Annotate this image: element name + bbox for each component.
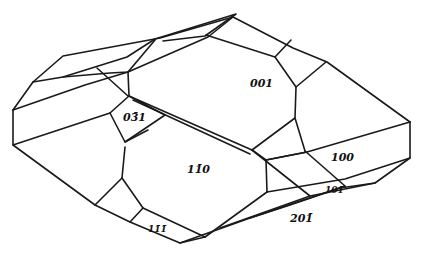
label-face-0-3bar-1: 03̄1 [123, 111, 146, 124]
face-110-lower-left [95, 147, 125, 205]
edge-b [128, 72, 129, 96]
outline-top [13, 17, 410, 122]
label-face-101: 101 [325, 185, 344, 195]
label-face-1-1bar-0: 11̄0 [187, 163, 210, 176]
edge-f [252, 118, 295, 150]
label-face-100: 100 [331, 151, 354, 164]
edge-i [266, 152, 307, 160]
edge-c [128, 40, 155, 72]
crystal-diagram: 001 03̄1 11̄0 100 101 201̄ 11̄1̄ [0, 0, 421, 267]
top-strip-inner [33, 14, 236, 82]
crystal-edges [13, 14, 410, 243]
edge-j [266, 160, 267, 192]
upper-left-parallel [13, 72, 128, 110]
edge-g [13, 113, 110, 145]
label-face-2-0-1bar: 201̄ [289, 212, 313, 225]
face-110-lower-mid [122, 178, 143, 222]
label-face-1-1bar-1bar: 11̄1̄ [148, 224, 167, 234]
edge-e [296, 62, 326, 87]
face-110-left [125, 130, 148, 142]
face-labels: 001 03̄1 11̄0 100 101 201̄ 11̄1̄ [123, 77, 354, 234]
top-strip-line [63, 17, 233, 77]
label-face-001: 001 [250, 77, 273, 90]
face-001-outline [206, 35, 305, 151]
central-ridge-a [129, 96, 252, 150]
